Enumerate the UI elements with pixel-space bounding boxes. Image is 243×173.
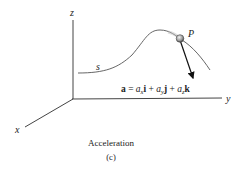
z-axis-label: z bbox=[69, 7, 74, 18]
particle-point bbox=[176, 35, 184, 43]
acceleration-diagram: z y x s P a = axi + ayj + azk Accelerati… bbox=[0, 0, 243, 173]
y-axis-label: y bbox=[225, 93, 231, 104]
figure-sublabel: (c) bbox=[106, 152, 116, 162]
acceleration-vector bbox=[180, 40, 193, 78]
acceleration-equation: a = axi + ayj + azk bbox=[121, 84, 190, 95]
curve-label: s bbox=[96, 61, 100, 72]
x-axis bbox=[25, 99, 73, 127]
point-label: P bbox=[187, 28, 194, 39]
y-axis bbox=[72, 98, 222, 99]
figure-caption: Acceleration bbox=[88, 138, 134, 148]
x-axis-label: x bbox=[14, 124, 20, 135]
